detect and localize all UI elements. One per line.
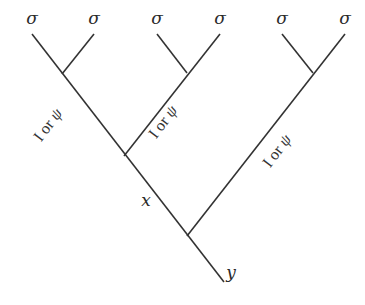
node-label-y: y xyxy=(225,262,236,282)
edge-leaf-2 xyxy=(62,34,94,74)
leaf-sigma-1: σ xyxy=(26,8,38,28)
leaf-sigma-4: σ xyxy=(214,8,226,28)
svg-text:I or ψ: I or ψ xyxy=(30,104,67,145)
leaf-sigma-5: σ xyxy=(276,8,288,28)
edge-leaf-6 xyxy=(187,34,345,236)
leaf-sigma-2: σ xyxy=(88,8,100,28)
tree-diagram: σ σ σ σ σ σ x y I or ψ I or ψ I or ψ xyxy=(0,0,365,305)
edge-spine xyxy=(32,34,224,282)
edge-label-1: I or ψ xyxy=(30,104,67,145)
edge-leaf-3 xyxy=(157,34,187,73)
edge-leaf-5 xyxy=(282,34,313,73)
leaf-sigma-3: σ xyxy=(151,8,163,28)
leaf-labels: σ σ σ σ σ σ xyxy=(26,8,351,28)
node-label-x: x xyxy=(141,190,151,210)
leaf-sigma-6: σ xyxy=(339,8,351,28)
tree-edges xyxy=(32,34,345,282)
